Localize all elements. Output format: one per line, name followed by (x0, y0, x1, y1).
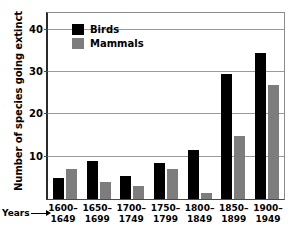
legend-item-mammals: Mammals (72, 38, 144, 49)
arrow-right-icon (31, 209, 53, 218)
x-tick-label: 1800–1849 (183, 203, 217, 225)
bar-mammals (167, 169, 178, 199)
bar-birds (255, 53, 266, 199)
bar-mammals (234, 136, 245, 199)
bar-mammals (100, 182, 111, 199)
bar-mammals (133, 186, 144, 199)
y-axis-title: Number of species going extinct (11, 6, 27, 196)
bar-mammals (66, 169, 77, 199)
bar-group (217, 13, 251, 199)
bar-group (250, 13, 284, 199)
x-axis-title: Years (2, 208, 53, 218)
legend-swatch-birds (72, 24, 84, 35)
x-axis-tick-labels: 1600–16491650–16991700–17491750–17991800… (46, 203, 285, 225)
bar-birds (120, 176, 131, 199)
x-tick-label: 1750–1799 (148, 203, 182, 225)
y-tick-label: 30 (29, 66, 43, 77)
bar-mammals (201, 193, 212, 199)
x-tick-label: 1900–1949 (251, 203, 285, 225)
legend: BirdsMammals (72, 24, 144, 49)
bar-birds (53, 178, 64, 199)
x-tick-label: 1650–1699 (80, 203, 114, 225)
bar-birds (87, 161, 98, 199)
bar-group (149, 13, 183, 199)
x-tick-label: 1700–1749 (114, 203, 148, 225)
legend-label: Mammals (90, 38, 144, 49)
bar-birds (221, 74, 232, 199)
y-tick-label: 40 (29, 23, 43, 34)
legend-item-birds: Birds (72, 24, 144, 35)
bar-mammals (268, 85, 279, 199)
legend-swatch-mammals (72, 38, 84, 49)
x-tick-label: 1850–1899 (217, 203, 251, 225)
x-axis-title-label: Years (2, 208, 30, 218)
bar-chart: Number of species going extinct 10203040… (0, 0, 297, 239)
y-tick-label: 10 (29, 150, 43, 161)
legend-label: Birds (90, 24, 119, 35)
bar-group (183, 13, 217, 199)
y-tick-label: 20 (29, 108, 43, 119)
bar-birds (188, 150, 199, 199)
bar-birds (154, 163, 165, 199)
